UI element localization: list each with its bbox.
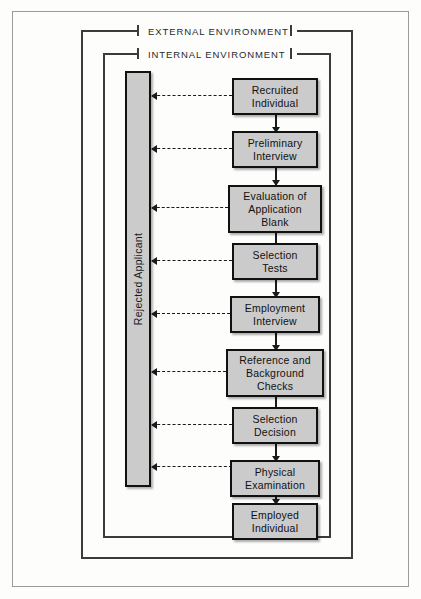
flow-arrow-7 xyxy=(275,444,277,461)
internal-environment-label: INTERNAL ENVIRONMENT xyxy=(148,49,285,60)
reject-arrow-5 xyxy=(152,313,230,314)
external-frame-right xyxy=(351,30,353,559)
external-frame-bottom xyxy=(81,557,353,559)
step-box-selection-tests[interactable]: Selection Tests xyxy=(232,243,318,280)
step-line: Individual xyxy=(251,522,299,535)
flow-arrow-5 xyxy=(275,333,277,350)
step-line: Selection xyxy=(253,249,298,262)
diagram-canvas: EXTERNAL ENVIRONMENT INTERNAL ENVIRONMEN… xyxy=(0,0,421,599)
step-line: Evaluation of xyxy=(243,190,306,203)
reject-arrow-6 xyxy=(152,371,226,372)
internal-frame-top-right xyxy=(297,53,331,55)
reject-arrow-1 xyxy=(152,95,232,96)
step-box-recruited-individual[interactable]: Recruited Individual xyxy=(232,78,318,115)
internal-frame-top-left xyxy=(103,53,138,55)
step-line: Employment xyxy=(245,302,305,315)
rejected-applicant-bar: Rejected Applicant xyxy=(125,71,151,487)
step-box-preliminary-interview[interactable]: Preliminary Interview xyxy=(232,131,318,168)
step-line: Physical xyxy=(245,466,305,479)
internal-frame-left xyxy=(103,53,105,538)
internal-frame-right xyxy=(329,53,331,538)
reject-arrow-2 xyxy=(152,148,232,149)
internal-label-cap-left xyxy=(137,48,139,59)
step-line: Background xyxy=(239,367,310,380)
step-line: Employed xyxy=(251,509,299,522)
step-line: Recruited xyxy=(252,84,299,97)
step-line: Reference and xyxy=(239,354,310,367)
internal-label-cap-right xyxy=(290,48,292,59)
step-box-reference-and-background-checks[interactable]: Reference and Background Checks xyxy=(226,349,324,397)
step-box-selection-decision[interactable]: Selection Decision xyxy=(232,407,318,444)
external-label-cap-left xyxy=(137,25,139,36)
step-line: Decision xyxy=(253,426,298,439)
rejected-applicant-label: Rejected Applicant xyxy=(132,233,144,325)
step-line: Examination xyxy=(245,479,305,492)
external-frame-top-left xyxy=(81,30,138,32)
step-box-employment-interview[interactable]: Employment Interview xyxy=(230,296,320,333)
flow-arrow-2 xyxy=(275,168,277,185)
reject-arrow-8 xyxy=(152,466,232,467)
step-box-physical-examination[interactable]: Physical Examination xyxy=(230,460,320,497)
external-environment-label: EXTERNAL ENVIRONMENT xyxy=(148,26,289,37)
step-line: Interview xyxy=(248,150,303,163)
reject-arrow-3 xyxy=(152,207,228,208)
reject-arrow-4 xyxy=(152,260,232,261)
step-box-employed-individual[interactable]: Employed Individual xyxy=(232,503,318,540)
step-line: Blank xyxy=(243,216,306,229)
external-frame-top-right xyxy=(297,30,353,32)
step-line: Application xyxy=(243,203,306,216)
step-line: Tests xyxy=(253,262,298,275)
step-line: Interview xyxy=(245,315,305,328)
external-frame-left xyxy=(81,30,83,559)
flow-arrow-4 xyxy=(275,280,277,297)
step-line: Checks xyxy=(239,380,310,393)
external-label-cap-right xyxy=(290,25,292,36)
step-line: Individual xyxy=(252,97,299,110)
reject-arrow-7 xyxy=(152,424,232,425)
step-line: Preliminary xyxy=(248,137,303,150)
page-border xyxy=(12,11,409,587)
flow-arrow-1 xyxy=(275,115,277,132)
step-line: Selection xyxy=(253,413,298,426)
step-box-evaluation-of-application-blank[interactable]: Evaluation of Application Blank xyxy=(228,185,322,233)
